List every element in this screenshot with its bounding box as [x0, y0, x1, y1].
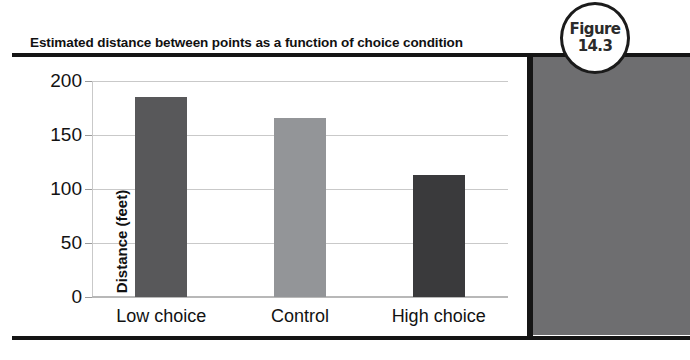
y-axis-tick-label: 100: [26, 179, 82, 198]
figure-badge-line-1: Figure: [570, 21, 621, 38]
figure-number-badge: Figure 14.3: [560, 2, 630, 74]
y-axis-tick-label: 50: [26, 233, 82, 252]
y-axis-tick-label: 200: [26, 71, 82, 90]
x-axis-tick-label: High choice: [359, 306, 519, 326]
y-axis-tick-label: 0: [26, 287, 82, 306]
bottom-rule: [12, 336, 690, 340]
plot-area: Distance (feet): [92, 81, 508, 297]
bar: [135, 97, 187, 297]
bar: [413, 175, 465, 297]
figure-container: Estimated distance between points as a f…: [0, 0, 690, 360]
y-axis-tick: [85, 81, 92, 82]
x-axis-tick-label: Control: [220, 306, 380, 326]
y-axis-tick: [85, 189, 92, 190]
figure-badge-line-2: 14.3: [578, 38, 613, 55]
right-gray-panel: [533, 57, 690, 335]
x-axis-tick-label: Low choice: [81, 306, 241, 326]
y-axis-tick: [85, 243, 92, 244]
gridline: [92, 81, 508, 82]
y-axis-title: Distance (feet): [113, 167, 130, 317]
chart-title: Estimated distance between points as a f…: [30, 33, 530, 53]
y-axis-tick: [85, 297, 92, 298]
bar: [274, 118, 326, 297]
y-axis-tick: [85, 135, 92, 136]
y-axis-tick-label: 150: [26, 125, 82, 144]
